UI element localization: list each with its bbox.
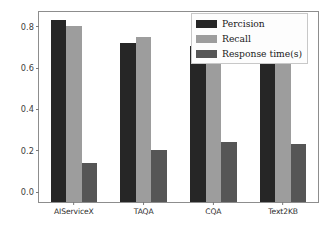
y-axis-tick-mark (36, 26, 39, 27)
y-axis-tick-mark (36, 150, 39, 151)
x-axis-tick-mark (143, 202, 144, 205)
y-axis-tick-label: 0.0 (21, 187, 36, 197)
bar (51, 20, 67, 202)
y-axis-tick-label: 0.2 (21, 146, 36, 156)
y-axis-tick: 0.4 (21, 104, 39, 114)
legend-item[interactable]: Percision (196, 17, 302, 30)
y-axis-tick-label: 0.6 (21, 63, 36, 73)
bar (120, 43, 136, 202)
legend-item[interactable]: Recall (196, 32, 302, 45)
legend-swatch (196, 35, 217, 43)
bar (275, 57, 291, 202)
y-axis-tick-mark (36, 192, 39, 193)
x-axis-tick: Text2KB (268, 202, 298, 216)
x-axis-tick: TAQA (134, 202, 154, 216)
y-axis-tick-label: 0.8 (21, 22, 36, 32)
bar (136, 37, 152, 202)
chart-legend: PercisionRecallResponse time(s) (191, 13, 308, 64)
legend-item[interactable]: Response time(s) (196, 47, 302, 60)
bar (66, 26, 82, 202)
bar (82, 163, 98, 202)
figure: 0.00.20.40.60.8AIServiceXTAQACQAText2KB … (0, 0, 326, 238)
bar (221, 142, 237, 202)
y-axis-tick: 0.8 (21, 22, 39, 32)
y-axis-tick: 0.0 (21, 187, 39, 197)
bar (206, 57, 222, 202)
x-axis-tick: CQA (205, 202, 221, 216)
bar (190, 46, 206, 202)
y-axis-tick-label: 0.4 (21, 104, 36, 114)
x-axis-tick-label: Text2KB (268, 207, 298, 216)
legend-swatch (196, 50, 217, 58)
legend-swatch (196, 20, 217, 28)
x-axis-tick-mark (73, 202, 74, 205)
x-axis-tick-label: TAQA (134, 207, 154, 216)
x-axis-tick-mark (283, 202, 284, 205)
bar (151, 150, 167, 202)
legend-label: Response time(s) (222, 49, 302, 58)
legend-label: Percision (222, 19, 265, 28)
y-axis-tick: 0.2 (21, 146, 39, 156)
x-axis-tick-mark (213, 202, 214, 205)
x-axis-tick: AIServiceX (54, 202, 94, 216)
y-axis-tick-mark (36, 109, 39, 110)
bar (291, 144, 307, 202)
x-axis-tick-label: CQA (205, 207, 221, 216)
y-axis-tick-mark (36, 68, 39, 69)
legend-label: Recall (222, 34, 251, 43)
y-axis-tick: 0.6 (21, 63, 39, 73)
x-axis-tick-label: AIServiceX (54, 207, 94, 216)
bar (260, 57, 276, 202)
